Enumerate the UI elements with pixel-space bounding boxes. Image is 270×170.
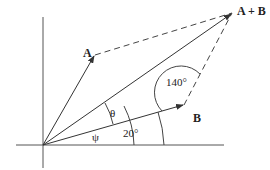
vector-sum	[43, 14, 231, 145]
dashed-side-a-to-sum	[95, 13, 232, 55]
vector-addition-diagram: A B A + B θ ψ 20° 140°	[0, 0, 270, 170]
dashed-side-b-to-sum	[184, 13, 232, 105]
label-sum: A + B	[237, 4, 266, 18]
vector-a	[43, 56, 94, 145]
arc-20	[158, 112, 164, 145]
label-psi: ψ	[92, 131, 99, 143]
label-theta: θ	[110, 107, 115, 119]
arc-psi	[124, 106, 134, 145]
label-a: A	[83, 46, 92, 60]
label-20deg: 20°	[123, 127, 138, 139]
label-140deg: 140°	[166, 76, 187, 88]
label-b: B	[193, 111, 201, 125]
arc-140	[154, 66, 200, 111]
